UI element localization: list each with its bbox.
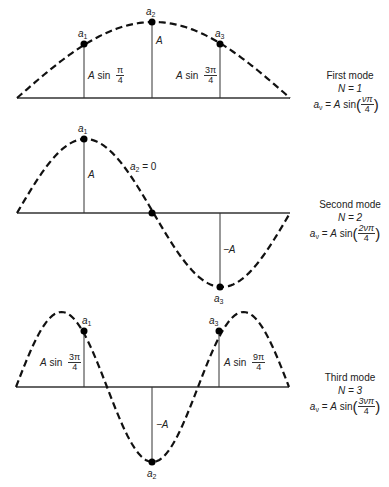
mode-1-a1-label: a1 bbox=[78, 29, 87, 40]
mode-3-graph bbox=[16, 312, 289, 466]
mode-2-a1-dot bbox=[81, 136, 88, 143]
mode-3-a2-value: −A bbox=[156, 420, 169, 430]
mode-3-a3-label: a3 bbox=[209, 316, 218, 327]
mode-1-a2-dot bbox=[149, 19, 156, 26]
mode-1-a1-dot bbox=[81, 41, 88, 48]
mode-2-a3-value: −A bbox=[223, 245, 236, 255]
mode-3-a3-value: A sin 9π4 bbox=[224, 353, 265, 373]
mode-3-a1-dot bbox=[81, 328, 88, 335]
mode-1-a1-value: A sin π4 bbox=[88, 66, 124, 86]
mode-3-title: Third mode bbox=[300, 372, 389, 385]
mode-2-a2-dot bbox=[149, 210, 156, 217]
mode-3-a1-label: a1 bbox=[82, 316, 91, 327]
mode-3-a1-value: A sin 3π4 bbox=[40, 353, 81, 373]
mode-2-a3-label: a3 bbox=[214, 294, 223, 305]
mode-1-title: First mode bbox=[300, 70, 389, 83]
mode-2-a1-label: a1 bbox=[78, 124, 87, 135]
mode-2-n: N = 2 bbox=[300, 212, 389, 225]
mode-2-a1-value: A bbox=[88, 170, 95, 180]
mode-3-a2-label: a2 bbox=[147, 469, 156, 480]
mode-3-a3-dot bbox=[216, 328, 223, 335]
mode-1-dashed-curve bbox=[17, 22, 290, 98]
mode-2-a2-label: a2 = 0 bbox=[130, 162, 156, 173]
mode-3-a2-dot bbox=[149, 459, 156, 466]
mode-2-title: Second mode bbox=[300, 199, 389, 212]
mode-2-a3-dot bbox=[217, 284, 224, 291]
mode-1-graph bbox=[17, 19, 290, 99]
mode-1-n: N = 1 bbox=[300, 83, 389, 96]
mode-2-formula: aν = A sin(2νπ4) bbox=[290, 224, 389, 244]
mode-1-a3-label: a3 bbox=[215, 29, 224, 40]
mode-2-graph bbox=[17, 136, 290, 291]
mode-3-formula: aν = A sin(3νπ4) bbox=[290, 397, 389, 417]
mode-1-a3-dot bbox=[217, 41, 224, 48]
mode-1-formula: aν = A sin(νπ4) bbox=[292, 95, 389, 115]
mode-3-caption: Third mode N = 3 aν = A sin(3νπ4) bbox=[300, 372, 389, 417]
mode-2-caption: Second mode N = 2 aν = A sin(2νπ4) bbox=[300, 199, 389, 244]
mode-1-a3-value: A sin 3π4 bbox=[176, 66, 217, 86]
mode-1-caption: First mode N = 1 aν = A sin(νπ4) bbox=[300, 70, 389, 115]
mode-3-n: N = 3 bbox=[300, 385, 389, 398]
mode-1-a2-label: a2 bbox=[146, 7, 155, 18]
mode-1-a2-value: A bbox=[156, 36, 163, 46]
